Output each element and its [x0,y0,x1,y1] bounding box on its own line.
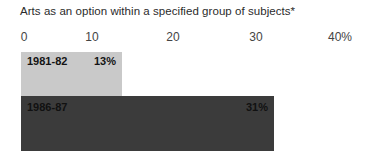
bar-category-label-0: 1981-82 [27,55,67,67]
bar-value-label-0: 13% [94,55,116,67]
bar-category-label-1: 1986-87 [27,101,67,113]
bar-1986-87: 1986-87 31% [21,96,274,151]
bar-value-label-1: 31% [246,101,268,113]
bar-chart-figure: Arts as an option within a specified gro… [0,0,368,162]
plot-area: 1981-82 13% 1986-87 31% [0,0,368,162]
bar-1981-82: 1981-82 13% [21,52,122,96]
